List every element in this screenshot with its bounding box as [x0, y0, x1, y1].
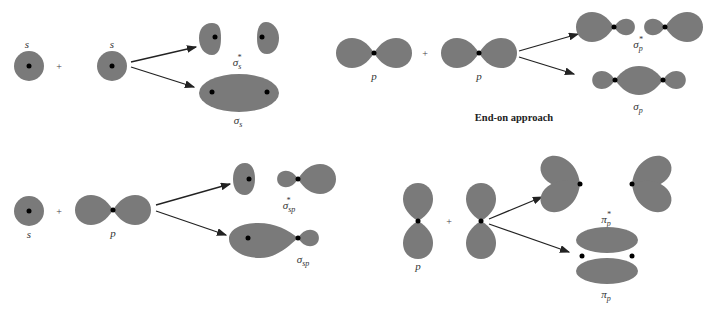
panel-p-p-side-on: p + πp* πp: [403, 150, 677, 303]
nucleus: [27, 64, 32, 69]
p-orbital-left: [336, 38, 412, 68]
antibonding-label: σs*: [233, 53, 242, 71]
arrow-to-bonding: [131, 67, 194, 87]
antibonding-label: σp*: [633, 35, 642, 53]
nucleus: [210, 90, 215, 95]
molecular-orbital-diagram: s + s σs* σs p +: [0, 0, 713, 311]
end-on-approach-caption: End-on approach: [475, 112, 553, 123]
bonding-orbital: [229, 223, 319, 258]
arrow-to-bonding: [156, 211, 226, 235]
arrow-to-antibonding: [156, 184, 230, 205]
nucleus: [27, 209, 32, 214]
arrow-to-bonding: [519, 57, 574, 74]
right-orbital-label: p: [475, 70, 482, 82]
bonding-label: πp: [601, 288, 611, 303]
right-orbital-label: p: [109, 227, 116, 239]
left-orbital-label: p: [370, 70, 377, 82]
antibonding-orbital: [535, 150, 677, 218]
antibonding-label: πp*: [601, 210, 611, 228]
p-orbital-right: [466, 183, 496, 259]
nucleus: [213, 35, 218, 40]
antibonding-s-part: [233, 163, 255, 195]
plus-sign: +: [446, 216, 452, 227]
panel-s-p: s + p σsp* σsp: [14, 163, 336, 268]
right-orbital-label: s: [110, 38, 114, 50]
arrow-to-antibonding: [131, 47, 196, 62]
p-orbital-left: [403, 183, 433, 259]
panel-s-s: s + s σs* σs: [14, 22, 279, 129]
plus-sign: +: [56, 206, 62, 217]
nucleus: [247, 177, 252, 182]
antibonding-p-part: [277, 164, 336, 194]
bonding-label: σp: [633, 100, 642, 115]
plus-sign: +: [422, 48, 428, 59]
left-orbital-label: p: [414, 260, 421, 272]
nucleus: [110, 64, 115, 69]
arrow-to-antibonding: [489, 197, 542, 219]
arrow-to-antibonding: [519, 34, 578, 51]
antibonding-label: σsp*: [283, 196, 296, 214]
nucleus: [260, 35, 265, 40]
nucleus: [265, 90, 270, 95]
arrow-to-bonding: [489, 224, 569, 252]
plus-sign: +: [56, 61, 62, 72]
bonding-orbital: [576, 227, 638, 284]
left-orbital-label: s: [27, 228, 31, 240]
left-orbital-label: s: [25, 38, 29, 50]
p-orbital-right: [441, 38, 517, 68]
bonding-label: σs: [234, 114, 243, 129]
bonding-label: σsp: [297, 253, 310, 268]
panel-p-p-end-on: p + p σp* σp End-on ap: [336, 12, 703, 123]
p-orbital: [75, 195, 151, 225]
antibonding-lobe-left: [199, 23, 221, 55]
bonding-orbital: [592, 66, 686, 95]
